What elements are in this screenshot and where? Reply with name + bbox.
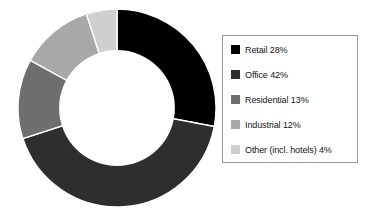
legend-item[interactable]: Residential 13%	[231, 93, 351, 106]
legend-item[interactable]: Industrial 12%	[231, 118, 351, 131]
legend-item[interactable]: Retail 28%	[231, 43, 351, 56]
legend-swatch-office	[231, 70, 240, 79]
legend-item[interactable]: Other (incl. hotels) 4%	[231, 143, 351, 156]
chart-page: Retail 28% Office 42% Residential 13% In…	[0, 0, 366, 212]
legend-label-residential: Residential 13%	[245, 95, 309, 105]
legend-label-industrial: Industrial 12%	[245, 120, 301, 130]
legend-swatch-industrial	[231, 120, 240, 129]
donut-chart-svg	[18, 9, 216, 207]
legend-label-retail: Retail 28%	[245, 45, 288, 55]
legend-label-other: Other (incl. hotels) 4%	[245, 145, 332, 155]
donut-chart	[18, 9, 216, 207]
legend-swatch-residential	[231, 95, 240, 104]
legend-label-office: Office 42%	[245, 70, 288, 80]
donut-hole	[59, 50, 175, 166]
legend-swatch-other	[231, 145, 240, 154]
chart-legend: Retail 28% Office 42% Residential 13% In…	[222, 35, 358, 163]
legend-item[interactable]: Office 42%	[231, 68, 351, 81]
legend-swatch-retail	[231, 45, 240, 54]
